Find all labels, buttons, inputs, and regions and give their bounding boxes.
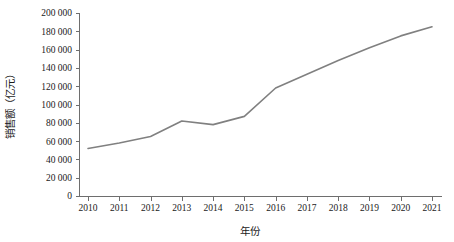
x-tick-label: 2017 [297,203,316,213]
x-tick-label: 2012 [141,203,160,213]
chart-canvas: 020 00040 00060 00080 000100 000120 0001… [0,0,454,242]
x-tick-label: 2020 [391,203,410,213]
y-tick-label: 80 000 [46,118,72,128]
y-tick-label: 120 000 [41,82,72,92]
x-tick-label: 2018 [329,203,348,213]
x-tick-label: 2010 [79,203,98,213]
x-tick-label: 2015 [235,203,254,213]
y-tick-label: 180 000 [41,27,72,37]
x-tick-label: 2021 [423,203,442,213]
x-tick-label: 2013 [172,203,191,213]
y-tick-label: 20 000 [46,173,72,183]
y-tick-label: 140 000 [41,63,72,73]
y-tick-label: 200 000 [41,8,72,18]
x-tick-label: 2014 [204,203,223,213]
x-tick-label: 2019 [360,203,379,213]
y-tick-label: 40 000 [46,155,72,165]
line-chart: 020 00040 00060 00080 000100 000120 0001… [0,0,454,242]
x-tick-label: 2016 [266,203,285,213]
y-axis-title: 销售额（亿元） [4,69,16,139]
y-tick-label: 160 000 [41,45,72,55]
y-tick-label: 100 000 [41,100,72,110]
x-axis-title: 年份 [240,225,261,237]
y-tick-label: 60 000 [46,137,72,147]
x-tick-label: 2011 [110,203,129,213]
y-tick-label: 0 [67,191,72,201]
